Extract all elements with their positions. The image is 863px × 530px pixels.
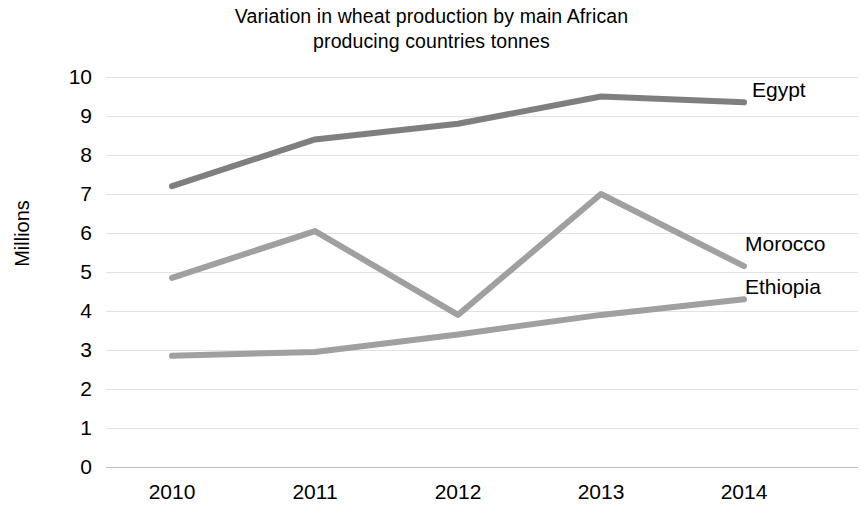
series-line-morocco bbox=[172, 194, 744, 315]
line-chart: Variation in wheat production by main Af… bbox=[0, 0, 863, 530]
series-line-egypt bbox=[172, 97, 744, 187]
plot-area bbox=[0, 0, 863, 530]
series-label-morocco: Morocco bbox=[745, 233, 826, 254]
series-label-ethiopia: Ethiopia bbox=[745, 276, 821, 297]
series-label-egypt: Egypt bbox=[752, 79, 806, 100]
series-line-ethiopia bbox=[172, 299, 744, 356]
